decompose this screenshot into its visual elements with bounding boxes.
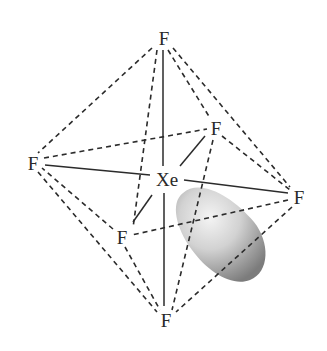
- fluorine-right-label: F: [294, 188, 305, 207]
- fluorine-left-label: F: [28, 154, 39, 173]
- fluorine-bottom-label: F: [161, 311, 172, 330]
- fluorine-back-right-label: F: [211, 119, 222, 138]
- xenon-atom-label: Xe: [156, 170, 178, 189]
- fluorine-top-label: F: [159, 29, 170, 48]
- xef6-diagram: Xe F F F F F F: [0, 0, 327, 351]
- lone-pair-lobe: [176, 188, 266, 282]
- fluorine-front-left-label: F: [117, 228, 128, 247]
